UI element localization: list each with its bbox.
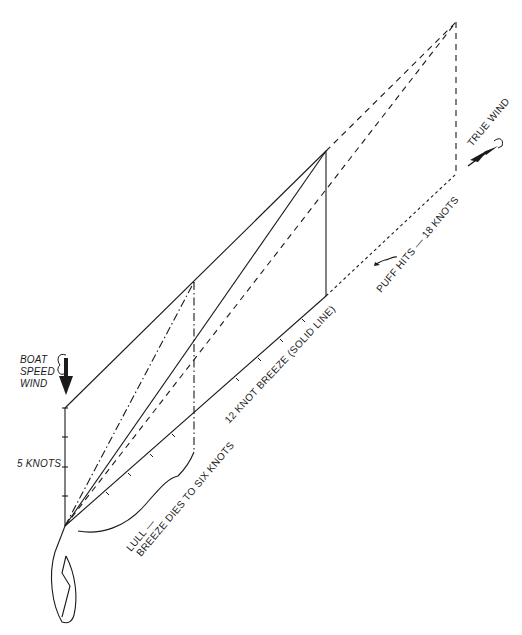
boat-speed-wind-label-2: SPEED (20, 366, 55, 377)
boat-speed-wind-label-3: WIND (20, 378, 47, 389)
puff-hits-label: PUFF HITS — 18 KNOTS (374, 194, 461, 294)
true-wind-label: TRUE WIND (465, 96, 512, 149)
six-knot-apparent-wind (65, 282, 194, 526)
wind-vector-diagram: BOAT SPEED WIND 5 KNOTS LULL — BREEZE DI… (0, 0, 522, 635)
apparent-wind-top-dashed (326, 22, 456, 151)
twelve-knot-breeze-label: 12 KNOT BREEZE (SOLID LINE) (222, 303, 337, 425)
boat-speed-wind-label-1: BOAT (20, 354, 48, 365)
lull-label-2: BREEZE DIES TO SIX KNOTS (134, 440, 236, 559)
twelve-knot-apparent-wind (65, 151, 326, 526)
boat-speed-vector (62, 408, 68, 526)
apparent-wind-top-solid (65, 151, 326, 408)
down-arrow-icon (58, 354, 73, 395)
five-knots-label: 5 KNOTS (17, 458, 61, 469)
boat-hull-icon (51, 526, 75, 623)
